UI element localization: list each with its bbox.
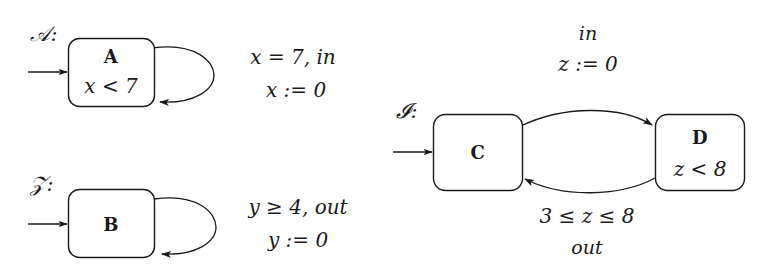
transition-d-to-c-guard: 3 ≤ z ≤ 8: [540, 206, 635, 226]
state-c-name: C: [471, 144, 486, 162]
timed-automata-diagram: 𝒜: A x < 7 x = 7, in x := 0 𝒵: B y ≥ 4, …: [0, 0, 770, 279]
state-d-invariant: z < 8: [674, 159, 727, 179]
diagram-vector-layer: [0, 0, 770, 279]
state-b-name: B: [103, 216, 119, 234]
transition-c-to-d-path: [521, 110, 652, 126]
transition-d-to-c-update: out: [571, 238, 602, 257]
transition-a-self-update: x := 0: [266, 80, 326, 100]
transition-d-to-c-path: [525, 178, 655, 193]
state-a-invariant: x < 7: [84, 76, 137, 96]
transition-b-self-loop-path: [154, 198, 216, 254]
transition-c-to-d-guard: in: [579, 24, 597, 43]
transition-a-self-loop-path: [152, 47, 214, 102]
automaton-a-label: 𝒜:: [30, 24, 58, 45]
state-d-name: D: [692, 129, 708, 147]
state-a-name: A: [104, 48, 118, 66]
transition-c-to-d-update: z := 0: [558, 54, 617, 74]
automaton-i-label: 𝓘:: [396, 101, 418, 122]
transition-a-self-guard: x = 7, in: [250, 47, 335, 67]
transition-b-self-guard: y ≥ 4, out: [248, 197, 347, 217]
state-b-group: [28, 190, 216, 258]
transition-b-self-update: y := 0: [268, 230, 328, 250]
automaton-b-label: 𝒵:: [30, 174, 54, 195]
